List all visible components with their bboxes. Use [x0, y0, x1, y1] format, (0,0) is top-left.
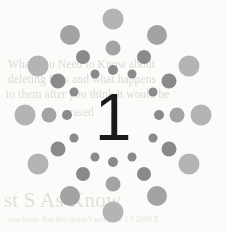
burst-dot — [51, 74, 66, 89]
burst-dot — [62, 110, 72, 120]
burst-dot — [149, 134, 158, 143]
burst-dot — [28, 56, 49, 77]
burst-dot — [128, 70, 137, 79]
burst-dot — [91, 70, 100, 79]
burst-dot — [28, 154, 49, 175]
burst-dot — [108, 157, 118, 167]
burst-dot — [76, 50, 90, 64]
burst-dot — [108, 65, 118, 75]
chapter-number: 1 — [95, 84, 132, 150]
burst-dot — [103, 9, 124, 30]
burst-dot — [106, 177, 121, 192]
burst-dot — [106, 41, 121, 56]
burst-dot — [15, 105, 36, 126]
burst-dot — [191, 105, 212, 126]
burst-dot — [149, 88, 158, 97]
burst-dot — [137, 167, 151, 181]
burst-dot — [147, 25, 167, 45]
burst-dot — [51, 142, 66, 157]
burst-dot — [170, 108, 185, 123]
burst-dot — [137, 50, 151, 64]
burst-dot — [60, 25, 80, 45]
burst-dot — [179, 56, 200, 77]
burst-dot — [179, 154, 200, 175]
burst-dot — [60, 186, 80, 206]
burst-dot — [76, 167, 90, 181]
chapter-opener-page: What You Need to Know aboutdeleting file… — [0, 0, 226, 231]
burst-dot — [70, 134, 79, 143]
burst-dot — [103, 202, 124, 223]
burst-dot — [147, 186, 167, 206]
burst-dot — [42, 108, 57, 123]
burst-dot — [162, 74, 177, 89]
burst-dot — [154, 110, 164, 120]
burst-dot — [162, 142, 177, 157]
burst-dot — [70, 88, 79, 97]
